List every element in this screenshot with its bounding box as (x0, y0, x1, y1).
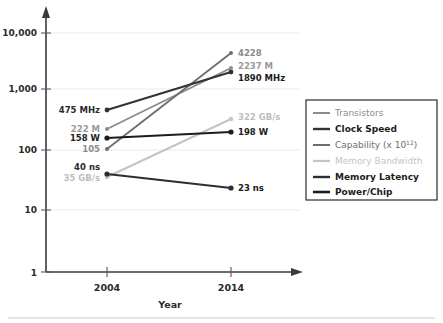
value-label-power-chip-2014: 198 W (238, 127, 269, 137)
series-line-clock-speed (107, 72, 231, 110)
ytick-label-100: 100 (18, 145, 37, 155)
legend-label-memory-latency[interactable]: Memory Latency (335, 172, 419, 182)
point-transistors-2004 (105, 127, 109, 131)
value-label-memory-bandwidth-2014: 322 GB/s (238, 112, 280, 122)
value-label-power-chip-2004: 158 W (70, 133, 101, 143)
point-memory-bandwidth-2014 (229, 117, 233, 121)
value-label-memory-latency-2004: 40 ns (74, 162, 100, 172)
chart-legend: Transistors Clock Speed Capability (x 10… (306, 100, 437, 200)
y-axis-arrow (42, 6, 50, 18)
value-label-capability-2004: 105 (82, 144, 100, 154)
legend-label-transistors[interactable]: Transistors (334, 108, 384, 118)
point-power-chip-2014 (228, 129, 233, 134)
point-transistors-2014 (229, 66, 233, 70)
x-axis-ticks: 2004 2014 Year (94, 267, 245, 310)
point-clock-speed-2014 (229, 70, 234, 75)
point-clock-speed-2004 (105, 108, 110, 113)
legend-label-power-chip[interactable]: Power/Chip (335, 187, 393, 197)
ytick-label-1: 1 (31, 268, 37, 278)
line-chart: 10,000 1,000 100 10 1 2004 2014 Year (0, 0, 443, 323)
xtick-label-2014: 2014 (218, 282, 245, 293)
legend-label-memory-bandwidth[interactable]: Memory Bandwidth (335, 156, 422, 166)
right-value-labels: 4228 2237 M 1890 MHz 322 GB/s 198 W 23 n… (238, 48, 285, 193)
value-label-clock-speed-2004: 475 MHz (59, 105, 100, 115)
legend-label-clock-speed[interactable]: Clock Speed (335, 124, 397, 134)
value-label-memory-bandwidth-2004: 35 GB/s (64, 173, 100, 183)
point-power-chip-2004 (104, 135, 109, 140)
legend-capability-exponent: 12 (406, 139, 414, 146)
ytick-label-10000: 10,000 (2, 28, 37, 38)
point-capability-2004 (105, 147, 109, 151)
point-memory-latency-2004 (104, 171, 109, 176)
value-label-clock-speed-2014: 1890 MHz (238, 73, 285, 83)
point-memory-latency-2014 (228, 185, 233, 190)
ytick-label-1000: 1,000 (9, 84, 37, 94)
series-line-memory-latency (107, 174, 231, 188)
xtick-label-2004: 2004 (94, 282, 121, 293)
value-label-memory-latency-2014: 23 ns (238, 183, 264, 193)
series-line-memory-bandwidth (107, 119, 231, 177)
point-capability-2014 (229, 51, 233, 55)
chart-container: 10,000 1,000 100 10 1 2004 2014 Year (0, 0, 443, 323)
value-label-capability-2014: 4228 (238, 48, 262, 58)
x-axis-title: Year (157, 299, 182, 310)
ytick-label-10: 10 (24, 205, 37, 215)
x-axis-arrow (291, 268, 303, 276)
value-label-transistors-2014: 2237 M (238, 61, 273, 71)
legend-capability-base: Capability (x 10 (335, 140, 406, 150)
y-axis-ticks: 10,000 1,000 100 10 1 (2, 28, 51, 278)
series-lines (107, 53, 231, 188)
legend-capability-tail: ) (414, 140, 418, 150)
left-value-labels: 475 MHz 222 M 158 W 105 40 ns 35 GB/s (59, 105, 101, 183)
legend-label-capability[interactable]: Capability (x 1012) (335, 139, 417, 151)
